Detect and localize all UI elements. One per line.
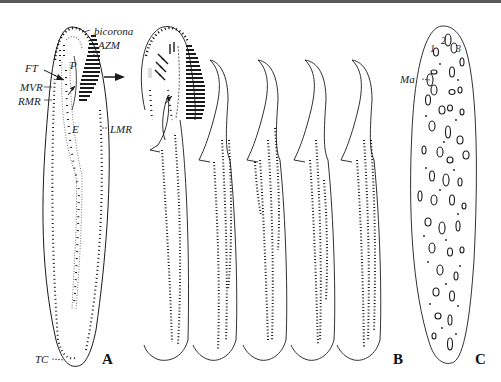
stage-4 — [291, 60, 335, 360]
panel-b-division-stages — [144, 60, 381, 360]
label-e: E — [72, 124, 79, 135]
stage-1 — [144, 96, 189, 360]
macronucleus-number-3: 3 — [456, 44, 461, 54]
label-ma: Ma — [400, 74, 415, 85]
transition-arrow — [104, 73, 125, 81]
panel-c-nuclear-apparatus — [411, 26, 477, 363]
figure-canvas — [0, 0, 501, 382]
label-tc: TC — [35, 354, 48, 365]
panel-b-oral-detail — [141, 26, 205, 120]
label-lmr: LMR — [110, 124, 132, 135]
label-mvr: MVR — [20, 82, 43, 93]
macronucleus-number-2: 2 — [441, 36, 446, 46]
azm-membranelles — [79, 36, 100, 100]
label-azm: AZM — [98, 40, 120, 51]
macronuclear-nodules — [418, 34, 469, 350]
panel-label-b: B — [393, 352, 403, 367]
stage-5 — [337, 60, 381, 360]
panel-label-c: C — [475, 352, 486, 367]
stage-3 — [243, 60, 287, 360]
panel-label-a: A — [102, 352, 113, 367]
macronucleus-number-1: 1 — [430, 44, 435, 54]
panel-a-cell — [43, 27, 109, 366]
label-bicorona: bicorona — [94, 26, 133, 37]
micronuclei-dots — [423, 63, 461, 335]
label-p: P — [70, 60, 77, 71]
b-frontal-cirri — [155, 42, 174, 80]
label-rmr: RMR — [18, 96, 41, 107]
label-ft: FT — [25, 63, 38, 74]
